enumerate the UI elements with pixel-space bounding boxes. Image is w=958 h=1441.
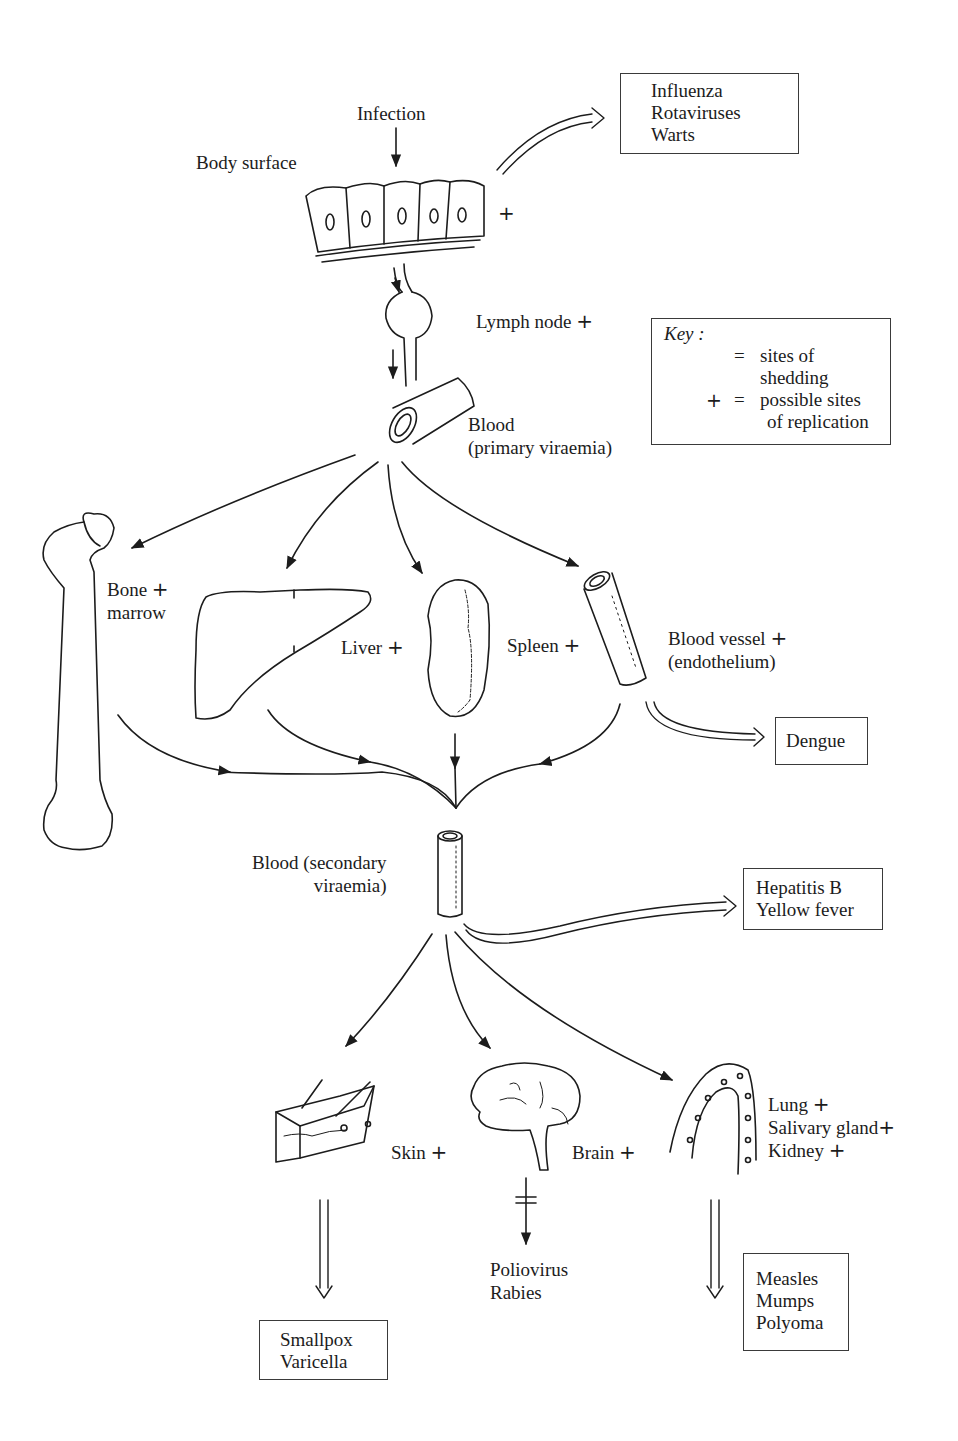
arrow-to-brain-icon [446, 935, 490, 1048]
blood-vessel-endothelium-icon [581, 568, 646, 685]
arrow-from-liver-icon [268, 710, 370, 762]
diagram-canvas: Infection Body surface + Lymph node + Bl… [0, 0, 958, 1441]
skin-icon [276, 1080, 374, 1162]
label-blocked-viruses: Poliovirus Rabies [490, 1258, 568, 1304]
legend-key: Key : = sites of shedding + = possible s… [651, 318, 891, 445]
label-brain: Brain + [572, 1141, 636, 1164]
legend-plus-icon: + [706, 389, 722, 411]
replication-marker-liver: + [387, 635, 404, 659]
spleen-icon [428, 580, 489, 717]
arrow-to-bone-marrow-icon [132, 455, 355, 548]
epithelium-icon [306, 180, 484, 262]
label-skin: Skin + [391, 1141, 447, 1164]
shedding-arrow-hepatitis-icon [464, 896, 736, 943]
replication-marker-bone-marrow: + [152, 577, 169, 601]
legend-row-shedding: = sites of [664, 345, 890, 367]
replication-marker-lung: + [813, 1092, 830, 1116]
label-lung: Lung + [768, 1093, 895, 1116]
label-lymph-node: Lymph node + [476, 310, 593, 333]
label-blood-secondary: Blood (secondary viraemia) [252, 851, 387, 897]
label-kidney: Kidney + [768, 1139, 895, 1162]
legend-title: Key : [664, 323, 890, 345]
brain-icon [471, 1063, 580, 1170]
blood-vessel-secondary-icon [438, 831, 462, 917]
label-blood-vessel: Blood vessel + (endothelium) [668, 627, 787, 673]
arrow-to-spleen-icon [388, 465, 422, 573]
label-liver: Liver + [341, 636, 404, 659]
bone-icon [43, 513, 114, 850]
shedding-box-surface: Influenza Rotaviruses Warts [620, 73, 799, 154]
arrow-to-liver-icon [287, 462, 378, 568]
arrow-from-blood-vessel-icon [540, 704, 620, 764]
shedding-box-blood: Hepatitis B Yellow fever [743, 868, 883, 930]
replication-marker-salivary-gland: + [878, 1115, 895, 1139]
arrow-from-bone-marrow-icon [118, 715, 230, 772]
replication-marker-skin: + [431, 1140, 448, 1164]
label-salivary-gland: Salivary gland+ [768, 1116, 895, 1139]
shedding-box-glands: Measles Mumps Polyoma [743, 1253, 849, 1351]
legend-row-replication: + = possible sites [664, 389, 890, 411]
epithelial-tube-icon [670, 1064, 756, 1174]
label-blood-primary: Blood (primary viraemia) [468, 413, 612, 459]
arrow-to-lung-icon [455, 932, 672, 1080]
arrow-to-skin-icon [346, 934, 432, 1046]
replication-marker-body-surface: + [498, 202, 515, 225]
blocked-arrow-icon [516, 1178, 536, 1244]
label-glands: Lung + Salivary gland+ Kidney + [768, 1093, 895, 1162]
label-spleen: Spleen + [507, 634, 580, 657]
replication-marker-lymph-node: + [576, 309, 593, 333]
arrow-to-blood-vessel-icon [402, 462, 578, 566]
shedding-arrow-skin-icon [316, 1200, 332, 1298]
label-bone-marrow: Bone + marrow [107, 578, 169, 624]
label-infection: Infection [357, 102, 426, 125]
replication-marker-kidney: + [829, 1138, 846, 1162]
blood-vessel-primary-icon [384, 378, 474, 447]
label-body-surface: Body surface [196, 151, 297, 174]
shedding-arrow-dengue-icon [646, 702, 764, 746]
shedding-box-endothelium: Dengue [775, 717, 868, 765]
shedding-arrow-surface-icon [497, 108, 604, 174]
replication-marker-spleen: + [563, 633, 580, 657]
shedding-box-skin: Smallpox Varicella [259, 1320, 388, 1380]
shedding-arrow-glands-icon [707, 1200, 723, 1298]
replication-marker-brain: + [619, 1140, 636, 1164]
replication-marker-blood-vessel: + [770, 626, 787, 650]
lymph-node-icon [386, 264, 432, 386]
